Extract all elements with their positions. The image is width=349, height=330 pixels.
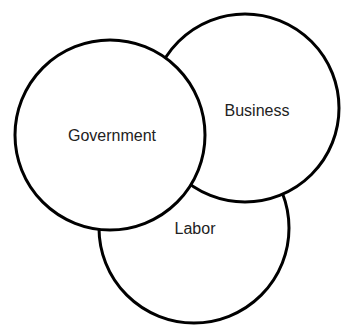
business-label: Business — [225, 102, 290, 119]
government-label: Government — [68, 127, 157, 144]
venn-diagram: LaborBusinessGovernment — [0, 0, 349, 330]
labor-label: Labor — [175, 220, 217, 237]
